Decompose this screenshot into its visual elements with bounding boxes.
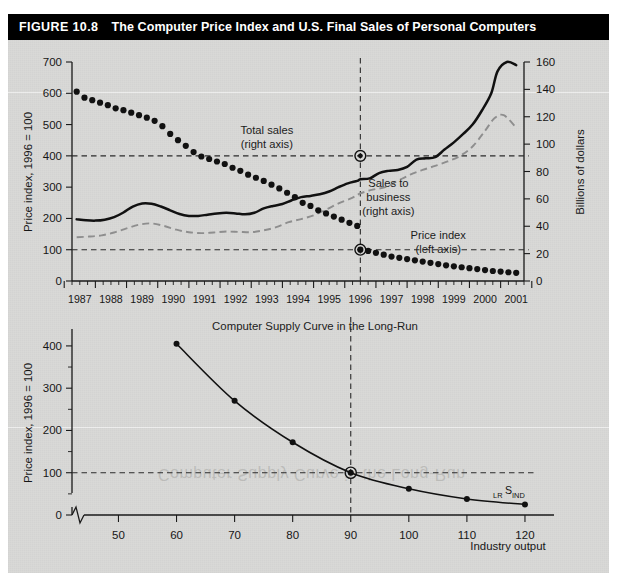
bottom-chart-reference-lines (72, 317, 537, 515)
total-sales-label: Total sales (240, 124, 293, 136)
price-index-dot (128, 110, 134, 116)
y2-tick-label: 60 (536, 193, 549, 205)
price-index-dot (144, 115, 150, 121)
price-index-dot (451, 263, 457, 269)
x-tick-label: 2001 (504, 293, 528, 305)
price-index-dot (459, 264, 465, 270)
top-chart-x-axis: 1987198819891990199119921993199419951996… (64, 281, 532, 305)
price-index-dot (284, 190, 290, 196)
price-index-dot (466, 265, 472, 271)
y-tick-label: 100 (43, 467, 62, 479)
price-index-dot (237, 168, 243, 174)
x-tick-label: 70 (228, 529, 241, 541)
x-tick-label: 2000 (473, 293, 497, 305)
y2-tick-label: 0 (536, 275, 542, 287)
bottom-chart-y-axis: 0100200300400 Price index, 1996 = 100 (22, 329, 84, 523)
bottom-chart-ylabel: Price index, 1996 = 100 (22, 363, 34, 483)
x-tick-label: 50 (112, 529, 125, 541)
svg-text:IND: IND (512, 491, 525, 500)
y2-tick-label: 100 (536, 138, 555, 150)
price-index-dot (74, 89, 80, 95)
top-chart-ylabel: Price index, 1996 = 100 (22, 112, 34, 232)
x-tick-label: 80 (286, 529, 299, 541)
x-tick-label: 1999 (442, 293, 466, 305)
supply-point-120 (522, 501, 528, 507)
y2-tick-label: 80 (536, 166, 549, 178)
price-index-label: (left axis) (416, 243, 462, 255)
price-index-dot (183, 143, 189, 149)
price-index-dot (222, 161, 228, 167)
top-chart-annotations: Total sales(right axis)Sales tobusiness(… (240, 124, 466, 255)
price-index-dot (482, 267, 488, 273)
price-index-dot (276, 185, 282, 191)
price-index-dot (268, 182, 274, 188)
bottom-chart-x-axis: 5060708090100110120 Industry output (84, 515, 554, 552)
y2-tick-label: 40 (536, 220, 549, 232)
figure-number: FIGURE 10.8 (8, 20, 98, 34)
price-index-1996-core (358, 247, 363, 252)
supply-point-60 (174, 341, 180, 347)
price-index-dot (443, 262, 449, 268)
svg-text:LR: LR (493, 491, 502, 500)
top-chart-y2label: Billions of dollars (574, 129, 586, 215)
price-index-dot (381, 252, 387, 258)
price-index-dot (292, 194, 298, 200)
supply-curve-label: LR S IND (493, 484, 525, 500)
price-index-dot (513, 270, 519, 276)
top-chart-right-axis: 020406080100120140160 Billions of dollar… (524, 56, 586, 287)
total-sales-1996-core (358, 153, 363, 158)
price-index-dot (245, 172, 251, 178)
price-index-dot (159, 123, 165, 129)
price-index-dot (214, 158, 220, 164)
price-index-dot (120, 107, 126, 113)
x-tick-label: 1998 (411, 293, 435, 305)
figure-10-8: FIGURE 10.8 The Computer Price Index and… (0, 0, 617, 582)
price-index-dot (206, 156, 212, 162)
bottom-chart-xlabel: Industry output (470, 540, 546, 552)
price-index-dot (315, 207, 321, 213)
y2-tick-label: 160 (536, 56, 555, 68)
x-tick-label: 1995 (317, 293, 341, 305)
y-tick-label: 0 (56, 509, 62, 521)
price-index-dot (404, 256, 410, 262)
sales-to-business-label: Sales to (368, 177, 408, 189)
total-sales-label: (right axis) (241, 138, 293, 150)
bottom-chart: Computer Supply Curve in the Long-Run 01… (8, 311, 609, 573)
y-tick-label: 0 (56, 275, 62, 287)
sales-to-business-label: (right axis) (362, 205, 414, 217)
price-index-dot (339, 217, 345, 223)
supply-point-110 (464, 496, 470, 502)
price-index-dot (412, 257, 418, 263)
axis-break-symbol (72, 507, 84, 523)
price-index-dot (89, 97, 95, 103)
price-index-dot (427, 260, 433, 266)
x-tick-label: 90 (344, 529, 357, 541)
y-tick-label: 300 (43, 181, 62, 193)
series-sales-to-business (77, 115, 517, 238)
sales-to-business-label: business (366, 191, 411, 203)
price-index-dot (261, 178, 267, 184)
y-tick-label: 500 (43, 119, 62, 131)
y-tick-label: 700 (43, 56, 62, 68)
price-index-dot (253, 175, 259, 181)
price-index-dot (498, 269, 504, 275)
price-index-dot (175, 137, 181, 143)
supply-point-80 (290, 439, 296, 445)
y-tick-label: 400 (43, 340, 62, 352)
price-index-dot (420, 259, 426, 265)
x-tick-label: 1994 (286, 293, 310, 305)
price-index-dot (474, 266, 480, 272)
price-index-dot (152, 118, 158, 124)
x-tick-label: 60 (170, 529, 183, 541)
y-tick-label: 400 (43, 150, 62, 162)
x-tick-label: 1991 (193, 293, 217, 305)
price-index-dot (300, 200, 306, 206)
supply-point-70 (232, 398, 238, 404)
figure-plate: Computer Supply Curve in the Long-Run 01… (8, 40, 609, 573)
price-index-dot (198, 153, 204, 159)
figure-title: The Computer Price Index and U.S. Final … (98, 20, 536, 34)
equilibrium-90-100-core (348, 470, 353, 475)
price-index-dot (229, 165, 235, 171)
x-tick-label: 1988 (99, 293, 123, 305)
price-index-dot (81, 95, 87, 101)
